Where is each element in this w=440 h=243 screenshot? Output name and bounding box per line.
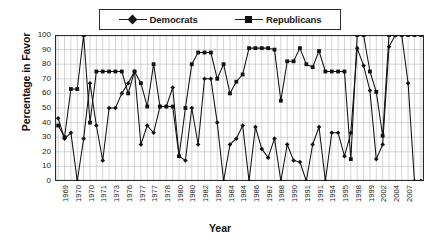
x-tick-label: 1978 <box>163 166 172 184</box>
x-tick-label: 1970 <box>74 166 83 184</box>
x-tick-label: 1982 <box>201 166 210 184</box>
x-tick-label: 1984 <box>227 166 236 184</box>
y-tick-label: 40 <box>29 119 51 127</box>
data-point-republicans <box>368 70 372 74</box>
x-tick-label: 2007 <box>405 166 414 184</box>
y-tick-label: 90 <box>29 46 51 54</box>
x-tick-label: 1995 <box>341 166 350 184</box>
y-tick-label: 30 <box>29 133 51 141</box>
data-point-republicans <box>406 35 410 37</box>
data-point-republicans <box>190 62 194 66</box>
data-point-republicans <box>228 92 232 96</box>
data-point-republicans <box>254 46 258 50</box>
data-point-republicans <box>279 99 283 103</box>
data-point-republicans <box>362 35 366 37</box>
x-tick-label: 2004 <box>392 166 401 184</box>
x-tick-label: 1970 <box>87 166 96 184</box>
y-tick-label: 80 <box>29 60 51 68</box>
data-point-republicans <box>56 124 60 128</box>
data-point-republicans <box>215 77 219 81</box>
y-tick-label: 0 <box>29 177 51 185</box>
data-point-republicans <box>285 59 289 63</box>
data-point-republicans <box>101 70 105 74</box>
x-tick-label: 2002 <box>379 166 388 184</box>
data-point-republicans <box>171 105 175 109</box>
data-point-republicans <box>317 49 321 53</box>
data-point-republicans <box>349 157 353 161</box>
data-point-republicans <box>145 105 149 109</box>
data-point-republicans <box>152 62 156 66</box>
y-tick-label: 70 <box>29 75 51 83</box>
legend-entry-republicans: Republicans <box>235 14 321 25</box>
data-point-republicans <box>184 106 188 110</box>
data-point-republicans <box>126 92 130 96</box>
x-tick-label: 1971 <box>99 166 108 184</box>
y-tick-label: 50 <box>29 104 51 112</box>
data-point-republicans <box>158 105 162 109</box>
data-point-republicans <box>139 81 143 85</box>
x-tick-label: 1998 <box>354 166 363 184</box>
x-tick-label: 1976 <box>125 166 134 184</box>
data-point-republicans <box>164 105 168 109</box>
x-tick-label: 1986 <box>252 166 261 184</box>
x-tick-label: 1969 <box>61 166 70 184</box>
data-point-republicans <box>266 46 270 50</box>
x-tick-label: 1980 <box>176 166 185 184</box>
data-point-republicans <box>260 46 264 50</box>
diamond-marker-icon <box>119 15 147 25</box>
x-tick-label: 1991 <box>303 166 312 184</box>
data-point-republicans <box>413 35 417 37</box>
x-tick-label: 1973 <box>112 166 121 184</box>
data-point-republicans <box>114 70 118 74</box>
data-point-republicans <box>234 80 238 84</box>
x-tick-label: 1982 <box>214 166 223 184</box>
legend-label-democrats: Democrats <box>150 14 198 25</box>
legend-entry-democrats: Democrats <box>119 14 198 25</box>
data-point-republicans <box>82 35 86 37</box>
plot-area <box>55 35 424 181</box>
plot-svg <box>55 35 424 181</box>
chart-legend: Democrats Republicans <box>99 9 341 30</box>
x-tick-label: 1988 <box>277 166 286 184</box>
x-axis-title: Year <box>0 222 440 234</box>
data-point-republicans <box>400 35 404 37</box>
y-tick-label: 10 <box>29 162 51 170</box>
data-point-republicans <box>75 87 79 91</box>
data-point-republicans <box>94 70 98 74</box>
data-point-republicans <box>88 121 92 125</box>
chart-container: Democrats Republicans Percentage in Favo… <box>0 0 440 243</box>
x-tick-label: 1977 <box>150 166 159 184</box>
data-point-republicans <box>419 35 423 37</box>
data-point-republicans <box>330 70 334 74</box>
data-point-republicans <box>120 70 124 74</box>
data-point-republicans <box>177 154 181 158</box>
data-point-republicans <box>107 70 111 74</box>
data-point-republicans <box>63 135 67 139</box>
data-point-republicans <box>336 70 340 74</box>
x-tick-label: 1994 <box>328 166 337 184</box>
data-point-republicans <box>203 51 207 55</box>
y-tick-label: 100 <box>29 31 51 39</box>
data-point-republicans <box>292 59 296 63</box>
data-point-republicans <box>69 87 73 91</box>
data-point-republicans <box>381 134 385 138</box>
data-point-republicans <box>241 73 245 77</box>
data-point-republicans <box>298 46 302 50</box>
x-tick-label: 1999 <box>367 166 376 184</box>
data-point-republicans <box>273 48 277 52</box>
data-point-republicans <box>323 70 327 74</box>
x-tick-label: 1977 <box>138 166 147 184</box>
x-tick-label: 1984 <box>239 166 248 184</box>
data-point-republicans <box>133 70 137 74</box>
data-point-republicans <box>247 46 251 50</box>
x-tick-label: 1991 <box>316 166 325 184</box>
x-tick-label: 1987 <box>265 166 274 184</box>
data-point-republicans <box>387 35 391 37</box>
y-tick-label: 60 <box>29 89 51 97</box>
x-tick-label: 1980 <box>188 166 197 184</box>
data-point-republicans <box>355 35 359 37</box>
data-point-republicans <box>209 51 213 55</box>
data-point-republicans <box>222 62 226 66</box>
data-point-republicans <box>311 65 315 69</box>
data-point-republicans <box>343 70 347 74</box>
